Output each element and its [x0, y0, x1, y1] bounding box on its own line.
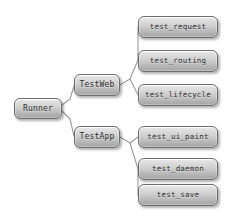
node-runner[interactable]: Runner: [14, 98, 62, 119]
edge-testapp-daemon: [130, 143, 138, 169]
node-testweb-label: TestWeb: [79, 81, 114, 89]
node-test-routing-label: test_routing: [150, 57, 207, 65]
node-testapp-label: TestApp: [79, 133, 114, 141]
node-runner-label: Runner: [23, 105, 53, 113]
node-test-lifecycle[interactable]: test_lifecycle: [138, 84, 218, 106]
edge-runner-testapp: [62, 111, 74, 136]
node-test-routing[interactable]: test_routing: [138, 50, 218, 72]
node-testapp[interactable]: TestApp: [74, 126, 120, 148]
node-test-daemon-label: test_daemon: [152, 165, 204, 173]
node-test-lifecycle-label: test_lifecycle: [145, 91, 211, 99]
node-test-request[interactable]: test_request: [138, 16, 218, 38]
node-test-request-label: test_request: [150, 23, 207, 31]
edge-testapp-uipaint: [120, 137, 138, 143]
node-testweb[interactable]: TestWeb: [74, 74, 120, 96]
edge-testweb-lifecycle: [130, 79, 138, 95]
edge-testweb-junction: [120, 60, 138, 85]
node-test-daemon[interactable]: test_daemon: [138, 158, 218, 180]
node-test-save[interactable]: test_save: [138, 184, 218, 206]
node-test-save-label: test_save: [157, 191, 199, 199]
edge-runner-testweb: [62, 86, 74, 105]
node-test-ui-paint-label: test_ui_paint: [147, 133, 208, 141]
node-test-ui-paint[interactable]: test_ui_paint: [138, 126, 218, 148]
diagram-canvas: Runner TestWeb TestApp test_request test…: [0, 0, 227, 223]
